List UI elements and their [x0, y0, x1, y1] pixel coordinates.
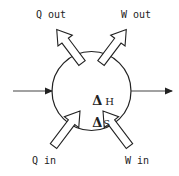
w-in-label: W in	[125, 156, 149, 166]
delta-s-label: ΔS	[82, 98, 110, 130]
w-out-label: W out	[121, 10, 151, 20]
w-out-arrow	[94, 24, 134, 68]
entropy-variable: S	[103, 118, 110, 129]
q-in-label: Q in	[32, 156, 56, 166]
q-out-label: Q out	[36, 10, 66, 20]
q-out-arrow	[50, 24, 90, 68]
delta-symbol-s: Δ	[92, 115, 102, 130]
